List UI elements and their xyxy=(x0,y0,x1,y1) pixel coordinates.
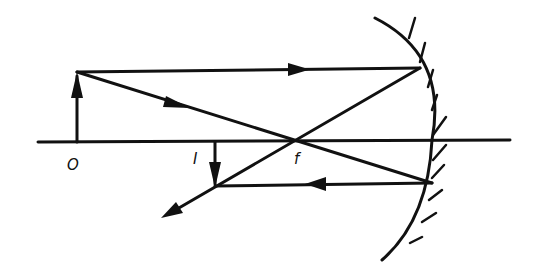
ray-diagram: O I f xyxy=(0,0,535,275)
parallel-incident-ray xyxy=(77,68,420,72)
mirror-hatching xyxy=(409,18,446,243)
object-arrowhead-icon xyxy=(71,72,83,98)
ray-direction-arrow-icon xyxy=(305,177,326,191)
focal-incident-ray xyxy=(77,72,432,183)
image-label: I xyxy=(193,150,198,168)
ray-direction-arrow-icon xyxy=(161,202,183,218)
ray-direction-arrow-icon xyxy=(163,96,190,108)
ray-direction-arrow-icon xyxy=(288,63,310,76)
focus-label: f xyxy=(294,150,302,168)
principal-axis xyxy=(38,140,510,142)
object-label: O xyxy=(67,156,79,174)
